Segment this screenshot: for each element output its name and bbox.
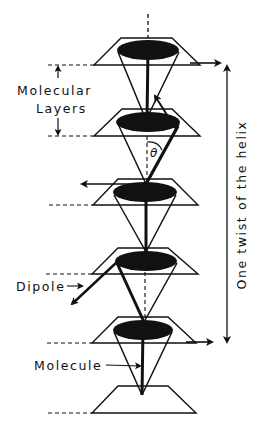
layer-5: [47, 317, 212, 395]
molecule-line: [142, 328, 143, 395]
dipole-annotation: Dipole: [16, 279, 82, 294]
molecule-annotation: Molecule: [34, 358, 140, 373]
helix-diagram: θ Molecular Layer: [0, 0, 256, 429]
molecular-layers-annotation: Molecular Layers: [17, 67, 92, 134]
cone-base-ellipse: [115, 251, 177, 271]
tilt-angle-label: θ: [150, 146, 158, 160]
helix-pitch-annotation: One twist of the helix: [227, 66, 249, 342]
layer-3: [49, 179, 198, 252]
dipole-arrow: [72, 262, 117, 304]
molecule-label: Molecule: [34, 358, 102, 373]
layer-6: [48, 386, 196, 413]
dipole-label: Dipole: [16, 279, 65, 294]
molecular-layers-label-line1: Molecular: [17, 83, 92, 98]
helix-pitch-label: One twist of the helix: [234, 120, 249, 289]
molecular-layers-label-line2: Layers: [36, 101, 87, 116]
layer-4: [46, 248, 198, 322]
